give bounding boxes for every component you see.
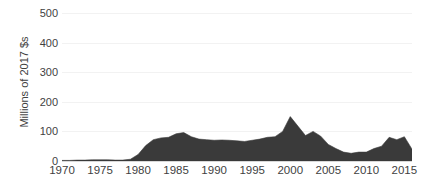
y-tick-300: 300 <box>24 66 58 78</box>
y-tick-400: 400 <box>24 37 58 49</box>
x-tick-2005: 2005 <box>316 164 342 176</box>
x-tick-1985: 1985 <box>163 164 189 176</box>
x-tick-1975: 1975 <box>87 164 113 176</box>
series-area-path <box>62 117 412 161</box>
y-tick-500: 500 <box>24 7 58 19</box>
x-axis-tick-labels: 1970 1975 1980 1985 1990 1995 2000 2005 … <box>62 164 412 184</box>
x-tick-1970: 1970 <box>49 164 75 176</box>
x-tick-1995: 1995 <box>239 164 265 176</box>
plot-area <box>62 13 412 161</box>
series-area <box>62 13 412 161</box>
x-tick-1980: 1980 <box>125 164 151 176</box>
y-tick-200: 200 <box>24 96 58 108</box>
x-tick-2010: 2010 <box>354 164 380 176</box>
x-tick-1990: 1990 <box>201 164 227 176</box>
y-tick-100: 100 <box>24 125 58 137</box>
x-axis-baseline <box>62 161 412 162</box>
x-tick-2000: 2000 <box>277 164 303 176</box>
area-chart: Millions of 2017 $s 500 400 300 200 100 … <box>0 0 427 196</box>
x-tick-2015: 2015 <box>392 164 418 176</box>
